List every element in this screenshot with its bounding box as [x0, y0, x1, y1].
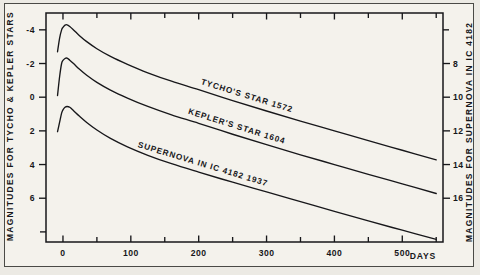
y-axis-right-tick-labels: 810121416: [453, 59, 464, 204]
y-right-tick-label: 10: [453, 92, 464, 102]
x-tick-label: 0: [60, 248, 65, 258]
curve-label: TYCHO'S STAR 1572: [200, 77, 294, 114]
y-left-tick-label: 4: [30, 160, 35, 170]
y-right-tick-label: 16: [453, 193, 464, 203]
x-tick-label: 200: [191, 248, 207, 258]
curve-label: SUPERNOVA IN IC 4182 1937: [137, 140, 269, 188]
y-right-tick-label: 12: [453, 126, 464, 136]
curve-annotations: TYCHO'S STAR 1572KEPLER'S STAR 1604SUPER…: [137, 77, 294, 188]
x-axis-tick-labels: 0100200300400500: [60, 248, 410, 258]
y-axis-right-ticks: [443, 0, 450, 198]
figure-page: 0100200300400500 -4-20246 810121416 TYCH…: [0, 0, 480, 275]
chart-svg: 0100200300400500 -4-20246 810121416 TYCH…: [0, 0, 480, 275]
x-tick-label: 400: [326, 248, 342, 258]
x-tick-label: 500: [394, 248, 410, 258]
x-axis-unit-label: DAYS: [410, 251, 436, 261]
y-left-tick-label: 2: [30, 126, 35, 136]
y-right-tick-label: 14: [453, 160, 464, 170]
y-right-tick-label: 8: [453, 59, 458, 69]
y-left-tick-label: 6: [30, 193, 35, 203]
x-tick-label: 100: [123, 248, 139, 258]
y-axis-left-ticks: [39, 30, 46, 232]
light-curve-figure: 0100200300400500 -4-20246 810121416 TYCH…: [0, 0, 480, 275]
y-axis-left-title: MAGNITUDES FOR TYCHO & KEPLER STARS: [5, 11, 15, 241]
y-left-tick-label: -2: [26, 59, 35, 69]
y-axis-right-title: MAGNITUDES FOR SUPERNOVA IN IC 4182: [464, 22, 474, 242]
y-axis-left-tick-labels: -4-20246: [26, 25, 35, 203]
x-tick-label: 300: [259, 248, 275, 258]
y-left-tick-label: 0: [30, 92, 35, 102]
y-left-tick-label: -4: [26, 25, 35, 35]
